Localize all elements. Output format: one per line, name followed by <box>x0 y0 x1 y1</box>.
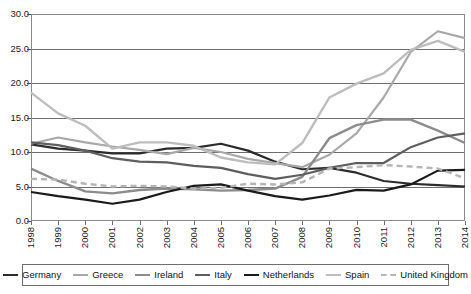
legend-line-icon <box>381 274 396 276</box>
legend-item-label: Italy <box>214 270 231 280</box>
chart-legend: GermanyGreeceIrelandItalyNetherlandsSpai… <box>22 264 449 286</box>
series-line-united-kingdom <box>31 165 465 188</box>
chart-plot-area: 0.05.010.015.020.025.030.0 <box>0 0 471 232</box>
chart-page: 0.05.010.015.020.025.030.0 1998199920002… <box>0 0 471 294</box>
x-axis-tick-label: 2005 <box>216 227 226 248</box>
x-axis-tick-label: 1998 <box>26 227 36 248</box>
legend-item-label: Greece <box>92 270 123 280</box>
y-axis-tick-label: 10.0 <box>0 147 29 157</box>
y-axis: 0.05.010.015.020.025.030.0 <box>0 0 29 232</box>
legend-item-label: Germany <box>22 270 61 280</box>
x-axis-tick-mark <box>58 221 59 225</box>
x-axis-tick-mark <box>411 221 412 225</box>
x-axis-tick-label: 2003 <box>162 227 172 248</box>
y-axis-tick-label: 25.0 <box>0 44 29 54</box>
x-axis-tick-mark <box>112 221 113 225</box>
x-axis-tick-mark <box>302 221 303 225</box>
x-axis-tick-mark <box>248 221 249 225</box>
legend-item-germany[interactable]: Germany <box>0 270 67 280</box>
x-axis-tick-mark <box>167 221 168 225</box>
x-axis-tick-label: 2008 <box>297 227 307 248</box>
x-axis-tick-mark <box>194 221 195 225</box>
y-axis-tick-label: 0.0 <box>0 216 29 226</box>
legend-line-icon <box>195 274 210 276</box>
x-axis-tick-mark <box>275 221 276 225</box>
x-axis-tick-label: 2006 <box>243 227 253 248</box>
x-axis-tick-mark <box>140 221 141 225</box>
x-axis-tick-label: 2000 <box>80 227 90 248</box>
legend-item-label: United Kingdom <box>400 270 468 280</box>
series-line-spain <box>31 41 465 165</box>
y-axis-tick-label: 15.0 <box>0 113 29 123</box>
legend-line-icon <box>73 274 88 276</box>
x-axis-tick-label: 2013 <box>433 227 443 248</box>
y-axis-tick-label: 5.0 <box>0 182 29 192</box>
x-axis-tick-mark <box>465 221 466 225</box>
series-line-italy <box>31 133 465 179</box>
x-axis-tick-label: 2001 <box>107 227 117 248</box>
x-axis-tick-mark <box>329 221 330 225</box>
legend-item-italy[interactable]: Italy <box>189 270 237 280</box>
x-axis-tick-mark <box>221 221 222 225</box>
x-axis-tick-mark <box>85 221 86 225</box>
x-axis-tick-label: 2011 <box>379 227 389 247</box>
x-axis-tick-label: 2014 <box>460 227 470 248</box>
x-axis: 1998199920002001200220032004200520062007… <box>31 221 465 263</box>
x-axis-tick-mark <box>31 221 32 225</box>
x-axis-tick-label: 2009 <box>324 227 334 248</box>
x-axis-tick-label: 1999 <box>53 227 63 248</box>
x-axis-tick-label: 2007 <box>270 227 280 248</box>
x-axis-tick-label: 2004 <box>189 227 199 248</box>
series-line-greece <box>31 31 465 167</box>
legend-line-icon <box>135 274 150 276</box>
legend-line-icon <box>244 274 259 276</box>
y-axis-tick-label: 30.0 <box>0 9 29 19</box>
legend-item-united-kingdom[interactable]: United Kingdom <box>375 270 471 280</box>
legend-item-netherlands[interactable]: Netherlands <box>238 270 320 280</box>
legend-item-spain[interactable]: Spain <box>320 270 375 280</box>
series-lines <box>31 14 465 221</box>
legend-item-label: Netherlands <box>263 270 314 280</box>
x-axis-tick-label: 2010 <box>352 227 362 248</box>
x-axis-tick-label: 2012 <box>406 227 416 248</box>
legend-item-label: Ireland <box>154 270 183 280</box>
x-axis-tick-label: 2002 <box>135 227 145 248</box>
x-axis-tick-mark <box>384 221 385 225</box>
x-axis-tick-mark <box>357 221 358 225</box>
legend-item-label: Spain <box>345 270 369 280</box>
legend-line-icon <box>3 274 18 276</box>
legend-item-ireland[interactable]: Ireland <box>129 270 189 280</box>
x-axis-tick-mark <box>438 221 439 225</box>
legend-item-greece[interactable]: Greece <box>67 270 129 280</box>
y-axis-tick-label: 20.0 <box>0 78 29 88</box>
legend-line-icon <box>326 274 341 276</box>
